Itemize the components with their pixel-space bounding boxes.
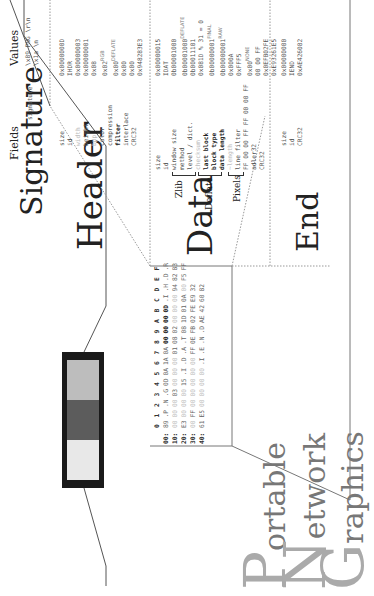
header-field-list: sizeidwidthheightbppcolorcompressionfilt… (58, 105, 138, 146)
hex-byte: 02 (188, 313, 197, 324)
field-value-tag: NONE (244, 47, 250, 62)
field-value-text: 0x000A (227, 54, 234, 76)
hex-byte: 00 (170, 302, 179, 313)
field-value-text: 0b00000001 (219, 39, 226, 76)
field-value-text: IHDR (66, 61, 73, 76)
field-value: 0x00000000 (280, 39, 288, 76)
hex-byte: 00 (179, 407, 188, 418)
field-name: line filter (234, 84, 242, 170)
hex-byte: .R (161, 260, 170, 271)
field-name: method (178, 84, 186, 170)
field-value: 0xAE426082 (296, 39, 304, 76)
hex-row-offset: 10: (170, 428, 179, 444)
hex-byte: FB (188, 323, 197, 334)
hex-column-label: C (152, 292, 161, 303)
hex-byte: .N (197, 334, 206, 345)
hex-byte: 00 (161, 334, 170, 345)
field-value: IEND (288, 39, 296, 76)
field-value: 0x02RGB (98, 39, 109, 76)
field-value-tag: DEFLATE (110, 39, 116, 61)
field-name: checksum (194, 84, 202, 170)
hex-byte: 00 (188, 386, 197, 397)
field-value-text: 0xE93261E5 (270, 39, 277, 76)
hex-byte: 00 (170, 418, 179, 429)
hex-byte: FE (188, 302, 197, 313)
hex-byte: 00 (170, 397, 179, 408)
hex-byte: 0A (161, 344, 170, 355)
hex-byte: 00 (188, 397, 197, 408)
field-name: adler32 (250, 84, 258, 170)
field-value: 0x00000001 (82, 39, 90, 76)
header-value-list: 0x0000000DIHDR0x000000030x000000010x080x… (58, 39, 144, 76)
field-value-text: 0x00 (120, 61, 127, 76)
hex-byte: 0A (161, 365, 170, 376)
hex-byte: 00 (170, 376, 179, 387)
field-name: interlace (122, 105, 130, 146)
field-name: size (280, 127, 288, 146)
bracket-pixels (228, 172, 244, 176)
field-value: 0x948283E3 (136, 39, 144, 76)
field-name: id (162, 84, 170, 170)
hex-byte: 08 (170, 334, 179, 345)
hex-byte: 00 (170, 292, 179, 303)
field-value: 0x000A (227, 17, 235, 76)
field-value: 00 00 FF (254, 17, 262, 76)
field-value-tag: RAW (217, 27, 223, 38)
field-signature: signature (26, 86, 34, 120)
hex-byte: .E (197, 344, 206, 355)
field-value-text: 0x00 (246, 61, 253, 76)
hex-byte: .T (179, 334, 188, 345)
hex-byte: 00 (179, 281, 188, 292)
field-name: CRC32 (258, 84, 266, 170)
field-value-text: 0b00000001 (208, 39, 215, 76)
hex-byte: .D (197, 323, 206, 334)
field-value-text: 0x00 (112, 61, 119, 76)
hex-byte: 00 (197, 397, 206, 408)
field-value-text: 0x00000015 (154, 39, 161, 76)
field-value: 0x00NONE (243, 17, 254, 76)
field-value-text: 0x081D % 31 = 0 (197, 20, 204, 76)
hex-row: 30:00FF0000000000FF0EFB02FEE932 (188, 260, 197, 444)
hex-byte: 00 (179, 386, 188, 397)
field-name: size (154, 84, 162, 170)
field-value: 0x0000000D (58, 39, 66, 76)
field-value: 0x00 (120, 39, 128, 76)
hex-byte: .D (179, 355, 188, 366)
field-value-text: 0x00000000 (280, 39, 287, 76)
field-value: 0x081D % 31 = 0 (197, 17, 205, 76)
value-signature: \x89 PNG \r\n \x1a \n (24, 6, 40, 66)
hex-byte: 94 (170, 281, 179, 292)
field-value: IHDR (66, 39, 74, 76)
hex-byte: 00 (188, 418, 197, 429)
data-value-list: 0x00000015IDAT0b000010000b00001000DEFLAT… (154, 17, 278, 76)
hex-column-header: 0123456789ABCDEF (152, 260, 161, 444)
hex-byte: 00 (188, 376, 197, 387)
hex-byte: 00 (197, 365, 206, 376)
hex-byte: 00 (188, 365, 197, 376)
hex-byte: .N (161, 397, 170, 408)
hex-byte: 00 (170, 355, 179, 366)
hex-byte: 00 (170, 365, 179, 376)
field-name: level / dict. (186, 84, 194, 170)
hex-byte: 00 (170, 407, 179, 418)
field-value-text: 0x08 (90, 61, 97, 76)
field-name: compression (106, 105, 114, 146)
field-name: bpp (90, 105, 98, 146)
hex-byte: 00 (197, 376, 206, 387)
hex-byte: 0D (161, 376, 170, 387)
pixel-0 (67, 440, 99, 480)
hex-byte: .I (197, 355, 206, 366)
sublabel-pixels: Pixels (232, 175, 242, 202)
field-value: 0b00001000 (170, 17, 178, 76)
field-value: 0x00000015 (154, 17, 162, 76)
bracket-zlib (172, 172, 196, 176)
hex-row: 10:00000003000000010802000000948283 (170, 260, 179, 444)
hex-byte: .I (161, 292, 170, 303)
field-value-text: 0x0EFB02FE (262, 39, 269, 76)
hex-row: 20:E300000015.I.D.A.T081D010A00F5FF (179, 260, 188, 444)
hex-row-offset: 40: (197, 428, 206, 444)
hex-byte: 60 (197, 292, 206, 303)
field-name: CRC32 (130, 105, 138, 146)
hex-column-label: D (152, 281, 161, 292)
hex-byte: 08 (179, 323, 188, 334)
